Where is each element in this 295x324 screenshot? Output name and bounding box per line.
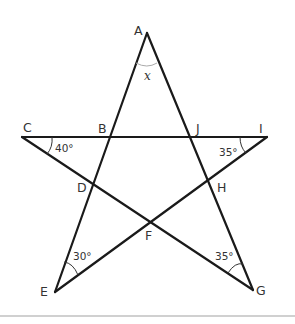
label-e: E [40, 284, 48, 299]
segment-a-g [147, 33, 253, 290]
angle-label-i: 35° [219, 146, 238, 158]
label-c: C [23, 120, 32, 135]
label-i: I [259, 121, 263, 136]
label-h: H [217, 180, 226, 195]
angle-arc-i [240, 137, 246, 153]
angle-label-a: x [144, 69, 151, 83]
angle-arc-g [228, 264, 243, 273]
label-f: F [145, 228, 152, 243]
angle-label-e: 30° [73, 250, 92, 262]
segment-a-e [55, 33, 147, 292]
angle-arc-c [47, 137, 52, 154]
angle-label-c: 40° [55, 142, 74, 154]
label-b: B [98, 121, 107, 136]
label-d: D [77, 180, 87, 195]
label-g: G [256, 283, 266, 298]
segment-c-g [22, 137, 253, 290]
label-a: A [134, 23, 143, 38]
label-j: J [195, 121, 200, 136]
star-diagram: A C I E G B J D H F x 40° 35° 30° 35° [0, 0, 295, 324]
angle-arc-a [136, 63, 157, 66]
angle-label-g: 35° [215, 250, 234, 262]
segment-i-e [55, 137, 267, 292]
